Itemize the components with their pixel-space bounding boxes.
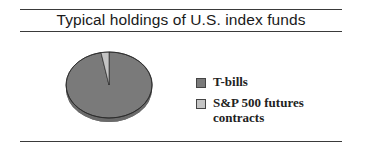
- chart-title: Typical holdings of U.S. index funds: [20, 11, 342, 29]
- legend-item-t-bills: T-bills: [196, 74, 323, 89]
- top-rule: [20, 9, 342, 10]
- bottom-rule: [20, 141, 342, 142]
- legend-label: T-bills: [213, 74, 323, 89]
- pie-chart: [60, 44, 160, 126]
- legend-swatch-t-bills: [196, 78, 206, 88]
- title-rule: [20, 31, 342, 32]
- legend-swatch-sp500-futures: [196, 99, 206, 109]
- legend-label: S&P 500 futures contracts: [213, 95, 323, 125]
- legend-item-sp500-futures: S&P 500 futures contracts: [196, 95, 323, 125]
- legend: T-bills S&P 500 futures contracts: [196, 74, 323, 131]
